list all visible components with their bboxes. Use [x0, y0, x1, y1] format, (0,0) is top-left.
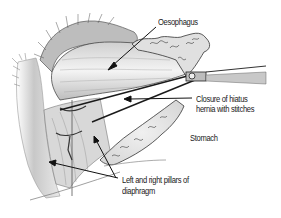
closure-arrow: [124, 96, 192, 102]
hiatus-hernia-illustration: Oesophagus Closure of hiatus hernia with…: [0, 0, 281, 218]
label-oesophagus: Oesophagus: [158, 17, 198, 27]
label-closure-line1: Closure of hiatus: [196, 94, 248, 104]
label-pillars-line2: diaphragm: [122, 186, 155, 196]
label-pillars-line1: Left and right pillars of: [122, 175, 189, 185]
label-stomach: Stomach: [190, 133, 218, 143]
stomach-tissue: [100, 100, 184, 166]
label-closure-line2: hernia with stitches: [196, 104, 254, 114]
